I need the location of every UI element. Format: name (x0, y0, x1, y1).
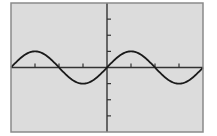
graph-window (0, 0, 217, 136)
